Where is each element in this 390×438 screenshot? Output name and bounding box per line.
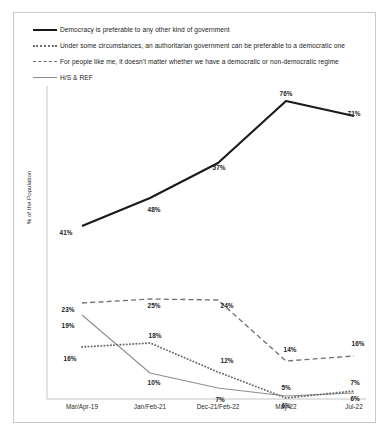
data-label: 18% [149, 332, 162, 339]
series-line-doesnt-matter [82, 299, 354, 361]
chart-figure: Democracy is preferable to any other kin… [13, 12, 376, 423]
x-axis-tick-label: Mar/Apr-19 [66, 403, 98, 410]
data-label: 57% [213, 164, 226, 171]
data-label: 5% [281, 384, 290, 391]
data-label: 76% [280, 90, 293, 97]
data-label: 16% [64, 355, 77, 362]
data-label: 12% [221, 357, 234, 364]
data-label: 71% [348, 110, 361, 117]
data-label: 48% [148, 206, 161, 213]
data-label: 7% [215, 396, 224, 403]
data-label: 19% [62, 322, 75, 329]
x-axis-tick-label: Jul-22 [345, 403, 362, 410]
data-label: 41% [60, 229, 73, 236]
series-line-hs-ref [82, 315, 354, 396]
data-label: 6% [350, 395, 359, 402]
x-axis-tick-labels: Mar/Apr-19Jan/Feb-21Dec-21/Feb-22May-22J… [47, 403, 377, 419]
x-axis-tick-label: Dec-21/Feb-22 [197, 403, 240, 410]
data-label: 10% [148, 379, 161, 386]
data-label: 16% [352, 340, 365, 347]
x-axis-tick-label: Jan/Feb-21 [134, 403, 166, 410]
data-label: 24% [221, 302, 234, 309]
data-label: 14% [284, 346, 297, 353]
x-axis-tick-label: May-22 [275, 403, 296, 410]
data-label: 25% [148, 302, 161, 309]
series-line-authoritarian [82, 343, 354, 398]
plot-area: % of the Population 41%48%57%76%71%23%25… [14, 13, 377, 424]
data-label: 7% [350, 379, 359, 386]
chart-lines [14, 13, 377, 424]
data-label: 23% [62, 306, 75, 313]
